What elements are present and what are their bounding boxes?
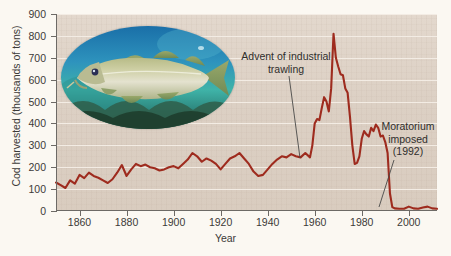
annotation-moratorium-leader-line xyxy=(0,0,451,256)
chart-figure: 0100200300400500600700800900 18601880190… xyxy=(0,0,451,256)
